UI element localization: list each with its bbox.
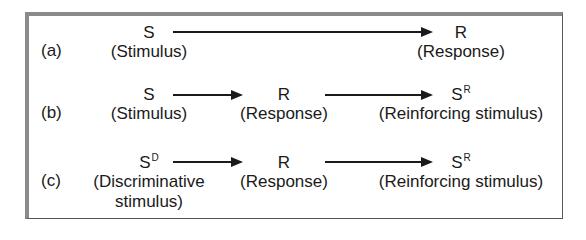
node-symbol: SD [139, 153, 159, 174]
symbol-superscript: R [464, 152, 471, 163]
node-caption: (Reinforcing stimulus) [379, 172, 543, 191]
symbol-base: S [451, 85, 462, 104]
node-symbol: SR [451, 85, 471, 106]
arrow-icon [325, 161, 431, 163]
node-symbol: R [455, 23, 467, 42]
node-caption: (Response) [240, 104, 328, 123]
row-label: (b) [41, 103, 62, 122]
node-caption: (Stimulus) [111, 42, 188, 61]
row-label: (c) [41, 171, 61, 190]
arrow-icon [173, 94, 241, 96]
node-caption: (Discriminative [93, 172, 204, 191]
arrow-icon [325, 94, 431, 96]
row-label: (a) [41, 41, 62, 60]
node-caption: (Reinforcing stimulus) [379, 104, 543, 123]
node-symbol: SR [451, 153, 471, 174]
node-symbol: S [143, 23, 154, 42]
symbol-base: S [139, 153, 150, 172]
node-caption: (Stimulus) [111, 104, 188, 123]
symbol-superscript: D [152, 152, 159, 163]
node-symbol: R [278, 153, 290, 172]
node-caption: (Response) [417, 42, 505, 61]
arrow-icon [173, 31, 431, 33]
arrow-icon [173, 161, 241, 163]
node-symbol: S [143, 85, 154, 104]
symbol-base: S [451, 153, 462, 172]
node-caption-line2: stimulus) [115, 192, 183, 211]
node-symbol: R [278, 85, 290, 104]
symbol-superscript: R [464, 84, 471, 95]
node-caption: (Response) [240, 172, 328, 191]
